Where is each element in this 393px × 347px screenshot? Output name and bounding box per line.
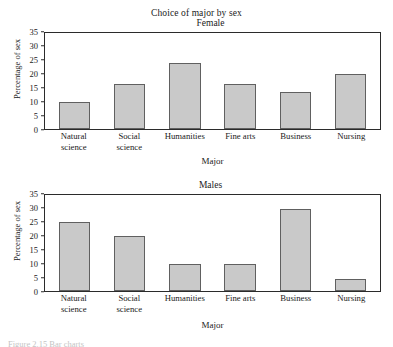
bar-slot <box>47 33 102 129</box>
y-tick-label: 30 <box>30 42 39 51</box>
bar-slot <box>102 33 157 129</box>
y-axis-ticks-female: 05101520253035 <box>0 32 44 130</box>
panel-title-male: Males <box>40 180 381 190</box>
x-tick-label-line: Business <box>268 293 324 304</box>
bar-slot <box>213 195 268 291</box>
x-tick-label: Nursing <box>324 131 380 152</box>
y-tick-label: 10 <box>30 98 39 107</box>
panel-title-female: Female <box>40 18 381 28</box>
y-tick-label: 5 <box>34 274 38 283</box>
bar-slot <box>47 195 102 291</box>
chart-panel-female: Female Percentage of sex 05101520253035 … <box>0 18 393 178</box>
y-tick-label: 35 <box>30 190 39 199</box>
bar-slot <box>102 195 157 291</box>
y-tick-label: 10 <box>30 260 39 269</box>
bar-slot <box>268 33 323 129</box>
x-tick-label-line: Nursing <box>324 131 380 142</box>
y-tick-label: 0 <box>34 288 38 297</box>
x-tick-label: Business <box>268 131 324 152</box>
bar <box>59 102 90 129</box>
x-tick-label-line: Natural <box>46 131 102 142</box>
x-tick-label: Fine arts <box>213 293 269 314</box>
y-tick-label: 25 <box>30 56 39 65</box>
x-axis-labels-female: NaturalscienceSocialscienceHumanitiesFin… <box>44 131 381 152</box>
bar <box>335 74 366 129</box>
bar-group-male <box>45 195 380 291</box>
x-tick-label: Socialscience <box>102 131 158 152</box>
chart-panel-male: Males Percentage of sex 05101520253035 N… <box>0 180 393 342</box>
bar <box>169 264 200 291</box>
x-tick-label: Nursing <box>324 293 380 314</box>
bar <box>224 264 255 291</box>
x-tick-label: Humanities <box>157 131 213 152</box>
y-tick-label: 25 <box>30 218 39 227</box>
y-tick-label: 35 <box>30 28 39 37</box>
x-tick-label-line: Humanities <box>157 293 213 304</box>
x-tick-label: Naturalscience <box>46 131 102 152</box>
figure-title: Choice of major by sex <box>0 8 393 18</box>
x-tick-label-line: science <box>46 142 102 153</box>
x-axis-labels-male: NaturalscienceSocialscienceHumanitiesFin… <box>44 293 381 314</box>
y-axis-ticks-male: 05101520253035 <box>0 194 44 292</box>
x-tick-label-line: Fine arts <box>213 293 269 304</box>
bar <box>280 92 311 129</box>
x-tick-label-line: science <box>102 142 158 153</box>
bar-slot <box>157 195 212 291</box>
y-tick-label: 15 <box>30 84 39 93</box>
x-tick-label-line: Business <box>268 131 324 142</box>
bar <box>114 236 145 291</box>
bar-slot <box>323 33 378 129</box>
bar <box>59 222 90 291</box>
y-tick-label: 30 <box>30 204 39 213</box>
x-tick-label: Socialscience <box>102 293 158 314</box>
x-tick-label-line: Social <box>102 131 158 142</box>
x-tick-label: Naturalscience <box>46 293 102 314</box>
plot-area-male <box>44 194 381 292</box>
x-axis-label-male: Major <box>44 320 381 330</box>
bar-slot <box>157 33 212 129</box>
x-tick-label-line: Humanities <box>157 131 213 142</box>
figure-caption-partial: Figure 2.15 Bar charts <box>8 339 208 347</box>
x-tick-label-line: Nursing <box>324 293 380 304</box>
x-tick-label-line: Social <box>102 293 158 304</box>
x-tick-label: Business <box>268 293 324 314</box>
y-tick-label: 20 <box>30 70 39 79</box>
bar-slot <box>268 195 323 291</box>
x-tick-label-line: Fine arts <box>213 131 269 142</box>
x-tick-label-line: science <box>102 304 158 315</box>
bar <box>335 279 366 291</box>
x-tick-label-line: science <box>46 304 102 315</box>
plot-area-female <box>44 32 381 130</box>
bar-group-female <box>45 33 380 129</box>
y-tick-label: 20 <box>30 232 39 241</box>
y-tick-label: 5 <box>34 112 38 121</box>
bar <box>114 84 145 129</box>
y-tick-label: 0 <box>34 126 38 135</box>
bar <box>169 63 200 129</box>
x-axis-label-female: Major <box>44 156 381 166</box>
bar <box>280 209 311 291</box>
y-tick-label: 15 <box>30 246 39 255</box>
x-tick-label: Humanities <box>157 293 213 314</box>
x-tick-label: Fine arts <box>213 131 269 152</box>
bar-slot <box>323 195 378 291</box>
x-tick-label-line: Natural <box>46 293 102 304</box>
figure-container: Choice of major by sex Female Percentage… <box>0 0 393 347</box>
bar <box>224 84 255 129</box>
bar-slot <box>213 33 268 129</box>
